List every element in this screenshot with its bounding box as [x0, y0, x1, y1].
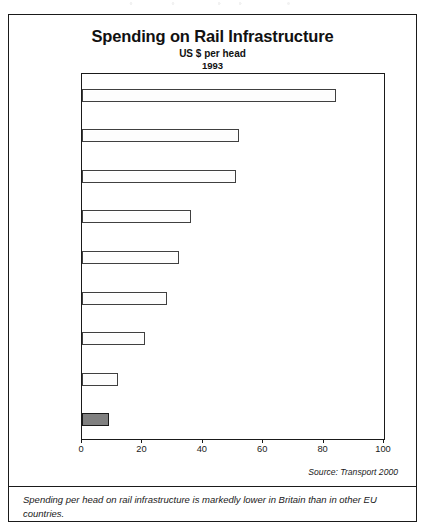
- x-tick-20: [141, 439, 142, 443]
- x-tick-label-0: 0: [78, 444, 83, 454]
- category-label-italy: Italy: [0, 291, 69, 301]
- category-label-germany: Germany: [0, 250, 69, 260]
- x-tick-label-20: 20: [136, 444, 146, 454]
- category-label-sweden: Sweden: [0, 88, 69, 98]
- x-tick-label-40: 40: [197, 444, 207, 454]
- x-tick-80: [323, 439, 324, 443]
- caption-divider: [9, 486, 416, 487]
- chart-subtitle-year: 1993: [9, 60, 416, 71]
- value-axis: 020406080100: [81, 439, 384, 461]
- x-tick-label-100: 100: [375, 444, 391, 454]
- category-label-britain: Britain: [0, 412, 69, 422]
- chart-caption: Spending per head on rail infrastructure…: [23, 493, 403, 520]
- category-label-france: France: [0, 128, 69, 138]
- chart-subtitle: US $ per head: [9, 48, 416, 59]
- x-tick-label-60: 60: [257, 444, 267, 454]
- bar-britain: [82, 413, 109, 426]
- chart-card: Spending on Rail Infrastructure US $ per…: [8, 14, 417, 522]
- bar-sweden: [82, 89, 336, 102]
- category-label-netherlands: Netherlands: [0, 169, 69, 179]
- category-label-portugal: Portugal: [0, 331, 69, 341]
- source-note: Source: Transport 2000: [308, 467, 398, 477]
- scan-artifact: [110, 1, 320, 6]
- bar-italy: [82, 292, 167, 305]
- x-tick-100: [383, 439, 384, 443]
- chart-page: Spending on Rail Infrastructure US $ per…: [0, 0, 426, 531]
- category-label-belgium: Belgium: [0, 209, 69, 219]
- x-tick-label-80: 80: [317, 444, 327, 454]
- bar-germany: [82, 251, 179, 264]
- x-tick-60: [262, 439, 263, 443]
- x-tick-0: [81, 439, 82, 443]
- bar-belgium: [82, 210, 191, 223]
- bar-netherlands: [82, 170, 236, 183]
- x-tick-40: [202, 439, 203, 443]
- bar-france: [82, 129, 239, 142]
- chart-title: Spending on Rail Infrastructure: [9, 27, 416, 46]
- category-label-spain: Spain: [0, 372, 69, 382]
- bar-spain: [82, 373, 118, 386]
- plot-area: [81, 73, 385, 440]
- bar-portugal: [82, 332, 145, 345]
